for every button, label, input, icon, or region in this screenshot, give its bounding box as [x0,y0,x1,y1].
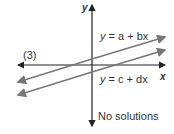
x-axis-label: x [160,72,166,82]
caption: No solutions [98,111,159,122]
equation-line-1: y = a + bx [100,31,148,42]
eq1-plus: + [124,30,137,42]
eq2-dx: dx [136,73,148,85]
case-label: (3) [23,50,36,61]
eq2-plus: + [124,73,137,85]
eq2-equals: = [106,73,119,85]
equation-line-2: y = c + dx [100,74,148,85]
eq1-equals: = [106,30,119,42]
eq1-bx: bx [137,30,149,42]
y-axis-label: y [82,3,88,13]
